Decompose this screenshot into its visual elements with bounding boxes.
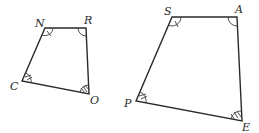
quadrilateral-nroc	[22, 28, 89, 94]
vertex-label-e: E	[241, 121, 250, 133]
vertex-label-c: C	[10, 80, 19, 93]
similar-quadrilaterals-diagram: N R O C S A E P	[0, 0, 259, 133]
vertex-label-r: R	[83, 14, 92, 27]
vertex-label-n: N	[34, 17, 45, 30]
angle-mark-a	[228, 17, 237, 26]
vertex-label-p: P	[123, 97, 132, 110]
vertex-label-s: S	[164, 5, 172, 18]
angle-mark-o	[80, 85, 89, 93]
vertex-label-a: A	[234, 3, 243, 16]
angle-mark-r	[78, 28, 86, 36]
quadrilateral-saep	[136, 17, 242, 121]
vertex-label-o: O	[90, 94, 99, 107]
